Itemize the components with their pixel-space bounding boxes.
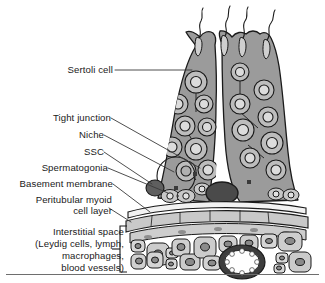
label-interstitial-line1: Interstitial space [53,226,124,238]
label-basement-membrane: Basement membrane [20,178,113,190]
label-peritubular-myoid-line1: Peritubular myoid [36,194,112,206]
leader-basement-membrane [113,184,150,212]
bottom-divider [6,274,319,275]
label-ssc: SSC [84,146,104,158]
label-spermatogonia: Spermatogonia [42,162,108,174]
label-niche: Niche [79,129,104,141]
label-interstitial-line3: macrophages, [62,250,124,262]
label-tight-junction: Tight junction [53,112,111,124]
figure-container: Sertoli cell Tight junction Niche SSC Sp… [0,0,325,283]
label-peritubular-myoid-line2: cell layer [73,205,112,217]
label-interstitial-line4: blood vessels) [61,262,124,274]
label-interstitial-line2: (Leydig cells, lymph, [35,238,124,250]
label-sertoli-cell: Sertoli cell [68,64,113,76]
leader-niche [104,135,174,172]
dark-germ-cell [206,182,238,204]
